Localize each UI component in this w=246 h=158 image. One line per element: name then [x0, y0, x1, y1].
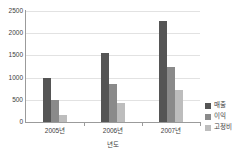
bar	[101, 53, 109, 122]
legend-item[interactable]: 고정비	[205, 122, 232, 133]
x-tick-label: 2005년	[26, 128, 84, 135]
x-tick-label: 2007년	[142, 128, 200, 135]
x-axis-line	[25, 122, 201, 123]
bar	[117, 103, 125, 122]
y-tick-label: 2000	[1, 30, 23, 37]
bar-group	[26, 11, 84, 122]
x-tick-label: 2006년	[84, 128, 142, 135]
legend-label: 매출	[214, 102, 226, 109]
legend-swatch-icon	[205, 103, 211, 109]
x-tick-mark	[142, 122, 143, 126]
y-axis-tick-labels: 05001000150020002500	[0, 0, 23, 158]
plot-area	[26, 11, 200, 122]
legend-label: 이익	[214, 113, 226, 120]
x-axis-title: 년도	[26, 142, 200, 149]
bar	[109, 84, 117, 122]
legend-item[interactable]: 이익	[205, 111, 232, 122]
y-tick-label: 2500	[1, 8, 23, 15]
legend-item[interactable]: 매출	[205, 100, 232, 111]
x-tick-mark	[200, 122, 201, 126]
legend-swatch-icon	[205, 114, 211, 120]
chart-legend: 매출이익고정비	[205, 100, 232, 133]
x-tick-mark	[84, 122, 85, 126]
bar	[59, 115, 67, 122]
bar	[43, 78, 51, 122]
bar	[51, 100, 59, 122]
legend-label: 고정비	[214, 124, 232, 131]
bar	[167, 67, 175, 123]
y-tick-label: 500	[1, 97, 23, 104]
bar-group	[142, 11, 200, 122]
legend-swatch-icon	[205, 125, 211, 131]
bar	[175, 90, 183, 122]
y-tick-label: 0	[1, 119, 23, 126]
bar-chart: 05001000150020002500 2005년2006년2007년 년도 …	[0, 0, 246, 158]
bar-group	[84, 11, 142, 122]
y-tick-label: 1000	[1, 75, 23, 82]
bar	[159, 21, 167, 122]
y-tick-label: 1500	[1, 52, 23, 59]
